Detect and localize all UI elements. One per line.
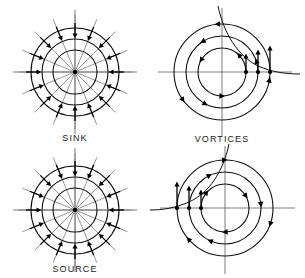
sink-label: SINK: [62, 133, 87, 143]
source-label: SOURCE: [52, 264, 97, 274]
sink-center-dot: [73, 70, 77, 74]
flow-field-figure: SINK VORTICES SOURCE: [0, 0, 305, 278]
vortices-label: VORTICES: [195, 134, 250, 144]
source-center-dot: [73, 208, 77, 212]
